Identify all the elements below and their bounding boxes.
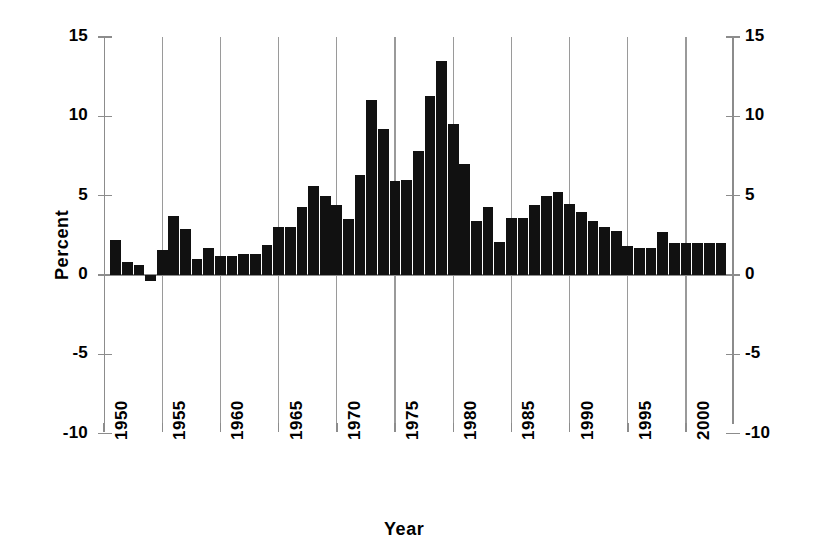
bar-1972 — [355, 175, 366, 275]
ytick-label-left-15: 15 — [20, 26, 88, 46]
bar-1978 — [425, 96, 436, 275]
ytick-right-15 — [726, 36, 740, 38]
ytick-label-left-5: 5 — [20, 185, 88, 205]
ytick-label-right-0: 0 — [745, 264, 815, 284]
bar-1990 — [564, 204, 575, 275]
xtick-1990 — [569, 423, 570, 432]
ytick-label-right-10: 10 — [745, 105, 815, 125]
bar-1967 — [297, 207, 308, 275]
xtick-label-1950: 1950 — [112, 400, 132, 440]
xtick-label-1975: 1975 — [403, 400, 423, 440]
ytick-left-5 — [98, 195, 112, 197]
bar-1969 — [320, 196, 331, 275]
bar-1994 — [611, 231, 622, 275]
xtick-label-1970: 1970 — [345, 400, 365, 440]
ytick-label-left--10: -10 — [20, 423, 88, 443]
xtick-label-1955: 1955 — [170, 400, 190, 440]
bar-1982 — [471, 221, 482, 275]
bar-1975 — [390, 181, 401, 275]
xtick-2000 — [685, 423, 686, 432]
gridline-1955 — [162, 37, 163, 424]
bar-2002 — [704, 243, 715, 275]
plot-area: 151510105500-5-5-10-10195019551960196519… — [0, 0, 819, 553]
right-axis — [732, 37, 734, 424]
bar-1986 — [518, 218, 529, 275]
ytick-right-10 — [726, 116, 740, 118]
bar-1983 — [483, 207, 494, 275]
ytick-right--10 — [726, 433, 740, 435]
bar-1977 — [413, 151, 424, 275]
bar-1955 — [157, 250, 168, 275]
xtick-label-1985: 1985 — [519, 400, 539, 440]
bar-1984 — [494, 242, 505, 275]
bar-1971 — [343, 219, 354, 275]
bar-1985 — [506, 218, 517, 275]
bar-1953 — [134, 265, 145, 275]
xtick-label-1990: 1990 — [578, 400, 598, 440]
bar-1981 — [459, 164, 470, 275]
bar-2000 — [681, 243, 692, 275]
bar-1954 — [145, 275, 156, 281]
bar-1979 — [436, 61, 447, 275]
xtick-label-2000: 2000 — [694, 400, 714, 440]
bar-2003 — [716, 243, 727, 275]
bar-1989 — [553, 192, 564, 275]
bar-1996 — [634, 248, 645, 275]
xtick-label-1995: 1995 — [636, 400, 656, 440]
bar-1965 — [273, 227, 284, 275]
xtick-1985 — [511, 423, 512, 432]
bar-1987 — [529, 205, 540, 275]
bar-1966 — [285, 227, 296, 275]
xtick-1950 — [103, 423, 104, 432]
xtick-1995 — [627, 423, 628, 432]
bar-1964 — [262, 245, 273, 275]
y-axis-title: Percent — [52, 210, 73, 280]
bar-1993 — [599, 227, 610, 275]
xtick-label-1980: 1980 — [461, 400, 481, 440]
ytick-label-left-10: 10 — [20, 105, 88, 125]
bar-1968 — [308, 186, 319, 275]
bar-1995 — [622, 246, 633, 275]
ytick-right-5 — [726, 195, 740, 197]
ytick-label-right-5: 5 — [745, 185, 815, 205]
bar-1997 — [646, 248, 657, 275]
ytick-right--5 — [726, 354, 740, 356]
bar-1992 — [588, 221, 599, 275]
bar-1958 — [192, 259, 203, 275]
ytick-left-15 — [98, 36, 112, 38]
left-axis — [104, 37, 106, 424]
bar-1957 — [180, 229, 191, 275]
ytick-left-10 — [98, 116, 112, 118]
gridline-1995 — [627, 37, 628, 424]
bar-1988 — [541, 196, 552, 275]
ytick-label-right--10: -10 — [745, 423, 815, 443]
xtick-1975 — [394, 423, 395, 432]
ytick-left--10 — [98, 433, 112, 435]
bar-1998 — [657, 232, 668, 275]
bar-1952 — [122, 262, 133, 275]
bar-1980 — [448, 124, 459, 275]
bar-1960 — [215, 256, 226, 275]
ytick-label-right--5: -5 — [745, 343, 815, 363]
bar-1974 — [378, 129, 389, 275]
bar-1961 — [227, 256, 238, 275]
gridline-2000 — [685, 37, 686, 424]
inflation-bar-chart: 151510105500-5-5-10-10195019551960196519… — [0, 0, 819, 553]
x-axis-title: Year — [384, 519, 424, 540]
bar-1999 — [669, 243, 680, 275]
bar-1991 — [576, 212, 587, 275]
ytick-left--5 — [98, 354, 112, 356]
xtick-1965 — [278, 423, 279, 432]
bar-1973 — [366, 100, 377, 275]
xtick-1970 — [336, 423, 337, 432]
ytick-label-right-15: 15 — [745, 26, 815, 46]
xtick-1955 — [162, 423, 163, 432]
xtick-label-1960: 1960 — [228, 400, 248, 440]
bar-1976 — [401, 180, 412, 275]
xtick-1960 — [220, 423, 221, 432]
xtick-1980 — [453, 423, 454, 432]
gridline-1960 — [220, 37, 221, 424]
bar-1951 — [110, 240, 121, 275]
bar-1970 — [331, 205, 342, 275]
ytick-label-left--5: -5 — [20, 343, 88, 363]
